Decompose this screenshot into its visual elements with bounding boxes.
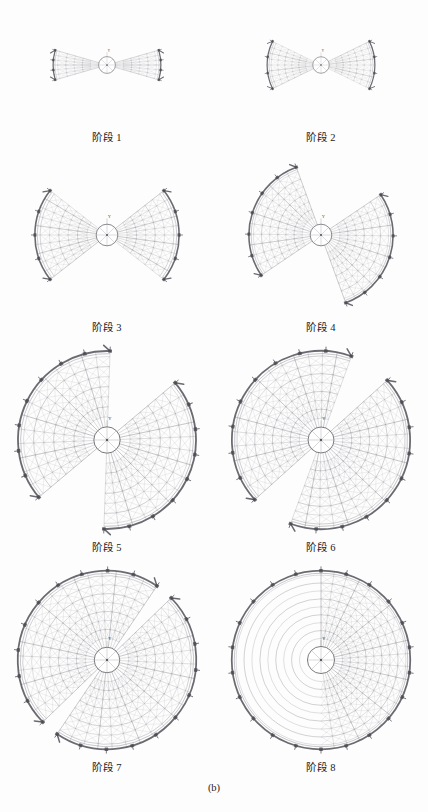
stage-figure-1: Y bbox=[0, 0, 214, 129]
stage-cell-7: Y 阶段 7 bbox=[0, 560, 214, 780]
stage-label-8: 阶段 8 bbox=[306, 759, 336, 780]
stage-drawing-5: Y bbox=[4, 342, 210, 538]
svg-text:Y: Y bbox=[322, 635, 325, 640]
svg-text:Y: Y bbox=[108, 215, 111, 219]
stage-label-4: 阶段 4 bbox=[306, 319, 336, 340]
stage-drawing-7: Y bbox=[4, 562, 210, 758]
stage-figure-6: Y bbox=[214, 340, 428, 539]
stage-label-1: 阶段 1 bbox=[92, 129, 122, 150]
svg-text:Y: Y bbox=[322, 49, 325, 53]
stage-drawing-2: Y bbox=[218, 5, 424, 125]
stage-figure-5: Y bbox=[0, 340, 214, 539]
figure-sheet: Y 阶段 1 Y 阶段 2 Y 阶段 3 Y 阶段 4 Y 阶段 5 Y 阶段 … bbox=[0, 0, 428, 812]
stage-label-2: 阶段 2 bbox=[306, 129, 336, 150]
stage-figure-2: Y bbox=[214, 0, 428, 129]
stage-label-3: 阶段 3 bbox=[92, 319, 122, 340]
stage-figure-7: Y bbox=[0, 560, 214, 759]
stage-figure-8: Y bbox=[214, 560, 428, 759]
stage-drawing-8: Y bbox=[218, 562, 424, 758]
stage-cell-8: Y 阶段 8 bbox=[214, 560, 428, 780]
figure-caption: (b) bbox=[0, 782, 428, 793]
stage-label-7: 阶段 7 bbox=[92, 759, 122, 780]
stage-cell-2: Y 阶段 2 bbox=[214, 0, 428, 150]
stage-cell-4: Y 阶段 4 bbox=[214, 150, 428, 340]
svg-text:Y: Y bbox=[108, 48, 111, 52]
svg-text:Y: Y bbox=[108, 415, 112, 420]
svg-text:Y: Y bbox=[322, 215, 325, 219]
stage-drawing-6: Y bbox=[218, 342, 424, 538]
stage-cell-6: Y 阶段 6 bbox=[214, 340, 428, 560]
stage-label-6: 阶段 6 bbox=[306, 539, 336, 560]
svg-text:Y: Y bbox=[108, 636, 111, 641]
stage-drawing-4: Y bbox=[218, 155, 424, 315]
stage-figure-4: Y bbox=[214, 150, 428, 319]
stage-cell-5: Y 阶段 5 bbox=[0, 340, 214, 560]
stage-label-5: 阶段 5 bbox=[92, 539, 122, 560]
stage-cell-3: Y 阶段 3 bbox=[0, 150, 214, 340]
stage-grid: Y 阶段 1 Y 阶段 2 Y 阶段 3 Y 阶段 4 Y 阶段 5 Y 阶段 … bbox=[0, 0, 428, 780]
stage-drawing-1: Y bbox=[4, 5, 210, 125]
stage-drawing-3: Y bbox=[4, 155, 210, 315]
stage-figure-3: Y bbox=[0, 150, 214, 319]
stage-cell-1: Y 阶段 1 bbox=[0, 0, 214, 150]
